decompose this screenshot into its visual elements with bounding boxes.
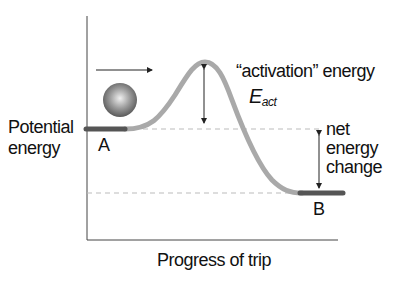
net-energy-change-label: net energy change bbox=[326, 120, 382, 177]
y-axis-label-line1: Potential bbox=[8, 117, 74, 138]
start-label-a: A bbox=[98, 136, 110, 154]
activation-symbol-subscript: act bbox=[262, 95, 277, 109]
net-label-line2: energy bbox=[326, 139, 382, 158]
net-label-line3: change bbox=[326, 158, 382, 177]
end-label-b: B bbox=[313, 200, 325, 218]
activation-symbol-e: E bbox=[249, 85, 262, 107]
activation-energy-label: “activation” energy bbox=[236, 62, 375, 80]
net-label-line1: net bbox=[326, 120, 382, 139]
y-axis-label-line2: energy bbox=[8, 138, 74, 159]
activation-energy-symbol: Eact bbox=[249, 86, 276, 108]
energy-curve bbox=[125, 62, 302, 193]
ball bbox=[103, 83, 137, 117]
x-axis-label: Progress of trip bbox=[157, 251, 271, 269]
y-axis-label: Potential energy bbox=[8, 117, 74, 159]
